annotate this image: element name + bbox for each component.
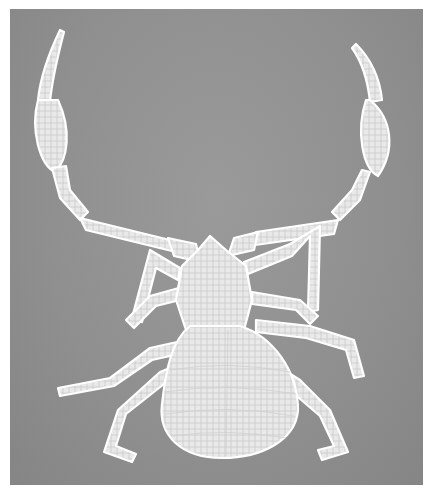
right-palp-segment: [332, 170, 370, 220]
right-claw-finger: [352, 44, 382, 102]
left-palp-segment: [52, 166, 88, 220]
right-palp-base: [228, 232, 258, 256]
left-claw-finger: [38, 30, 64, 102]
pseudoscorpion-specimen: [0, 0, 425, 488]
left-claw-hand: [35, 100, 67, 172]
left-palp-femur: [80, 218, 176, 252]
abdomen: [162, 326, 298, 458]
right-claw-hand: [361, 100, 389, 176]
